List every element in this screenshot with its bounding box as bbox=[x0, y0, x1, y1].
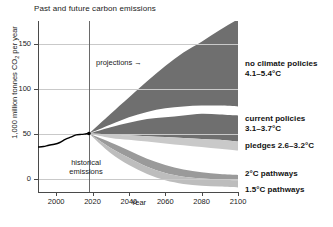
x-axis-line bbox=[38, 192, 239, 193]
series-label-no-climate-policies-line1: no climate policies bbox=[245, 59, 318, 69]
x-tick-label-2100: 2100 bbox=[221, 198, 255, 206]
chart-figure: Past and future carbon emissions 1,000 m… bbox=[0, 0, 333, 227]
x-tick-label-2000: 2000 bbox=[39, 198, 73, 206]
projections-annotation: projections → bbox=[96, 58, 142, 67]
present-day-marker bbox=[87, 132, 91, 136]
x-tick-label-2040: 2040 bbox=[112, 198, 146, 206]
historical-line-path bbox=[38, 134, 89, 148]
y-tick-label-150: 150 bbox=[5, 40, 31, 47]
series-label-1-5c-pathways: 1.5°C pathways bbox=[245, 185, 304, 195]
series-label-current-policies: current policies 3.1–3.7°C bbox=[245, 114, 305, 133]
series-label-no-climate-policies-line2: 4.1–5.4°C bbox=[245, 69, 318, 79]
y-tick-label-0: 0 bbox=[5, 175, 31, 182]
series-label-no-climate-policies: no climate policies 4.1–5.4°C bbox=[245, 59, 318, 78]
y-axis-title-pre: 1,000 million tonnes CO bbox=[10, 59, 19, 139]
plot-area: 050100150 200020202040206020802100 proje… bbox=[38, 21, 238, 192]
historical-emissions-annotation: historical emissions bbox=[62, 158, 110, 176]
series-label-current-policies-line2: 3.1–3.7°C bbox=[245, 124, 305, 134]
chart-title: Past and future carbon emissions bbox=[34, 4, 156, 13]
y-tick-label-100: 100 bbox=[5, 85, 31, 92]
y-axis-title-sub: 2 bbox=[13, 56, 19, 59]
x-tick-label-2060: 2060 bbox=[148, 198, 182, 206]
series-label-2c-pathways: 2°C pathways bbox=[245, 169, 298, 179]
series-label-current-policies-line1: current policies bbox=[245, 114, 305, 124]
series-label-pledges: pledges 2.6–3.2°C bbox=[245, 141, 314, 151]
y-tick-label-50: 50 bbox=[5, 130, 31, 137]
x-tick-label-2080: 2080 bbox=[185, 198, 219, 206]
x-tick-label-2020: 2020 bbox=[76, 198, 110, 206]
